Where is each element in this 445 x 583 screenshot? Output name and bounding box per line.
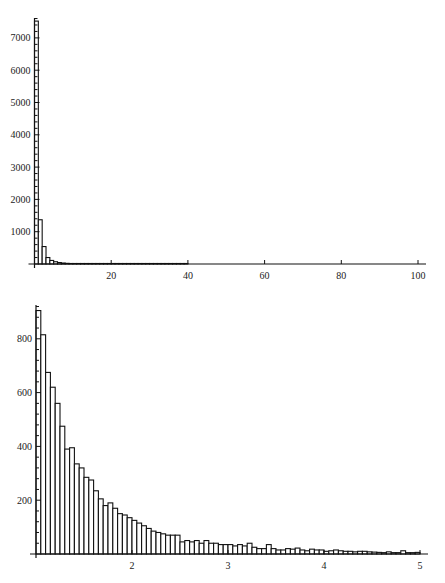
y-tick-label: 200: [17, 495, 32, 506]
histogram-bar: [223, 545, 228, 554]
histogram-bar: [281, 550, 286, 554]
histogram-bar: [295, 548, 300, 554]
histogram-bar: [276, 550, 281, 554]
histogram-bar: [242, 546, 247, 554]
histogram-bar: [406, 553, 411, 554]
histogram-bar: [266, 545, 271, 554]
histogram-bar: [127, 518, 132, 554]
x-tick-label: 4: [322, 560, 327, 571]
histogram-bar: [46, 258, 50, 264]
y-tick-label: 4000: [11, 129, 31, 140]
histogram-bar: [79, 468, 84, 554]
bars: [36, 311, 420, 554]
histogram-bar: [55, 403, 60, 554]
histogram-bar: [362, 551, 367, 554]
histogram-bar: [98, 499, 103, 554]
histogram-bar: [377, 552, 382, 554]
y-tick-label: 7000: [11, 32, 31, 43]
histogram-bar: [228, 545, 233, 554]
histogram-bar: [252, 547, 257, 554]
histogram-bar: [319, 550, 324, 554]
histogram-bar: [103, 506, 108, 554]
histogram-bar: [401, 551, 406, 554]
histogram-bar: [42, 247, 46, 264]
histogram-bar: [161, 534, 166, 554]
y-tick-label: 6000: [11, 65, 31, 76]
histogram-bar: [190, 542, 195, 554]
histogram-bar: [290, 549, 295, 554]
histogram-bar: [142, 526, 147, 554]
y-tick-label: 400: [17, 441, 32, 452]
x-tick-label: 60: [260, 270, 270, 281]
histogram-bar: [151, 531, 156, 554]
histogram-bar: [338, 551, 343, 554]
histogram-bar: [132, 520, 137, 554]
histogram-bar: [70, 448, 75, 554]
x-tick-label: 20: [106, 270, 116, 281]
histogram-bar: [396, 553, 401, 554]
histogram-bar: [122, 515, 127, 554]
histogram-bar: [199, 543, 204, 554]
histogram-bar: [257, 549, 262, 554]
histogram-bar: [238, 545, 243, 554]
histogram-bar: [310, 549, 315, 554]
y-tick-label: 2000: [11, 194, 31, 205]
histogram-bar: [358, 551, 363, 554]
histogram-bar: [218, 545, 223, 554]
histogram-bar: [41, 335, 46, 554]
x-tick-label: 40: [183, 270, 193, 281]
x-tick-label: 3: [226, 560, 231, 571]
bars: [35, 21, 188, 264]
histogram-bar: [329, 551, 334, 554]
histogram-bar: [314, 550, 319, 554]
x-tick-label: 5: [418, 560, 423, 571]
histogram-bar: [415, 552, 420, 554]
histogram-bar: [247, 543, 252, 554]
y-tick-label: 800: [17, 333, 32, 344]
histogram-bar: [353, 552, 358, 554]
histogram-bar: [386, 552, 391, 554]
histogram-bar: [156, 532, 161, 554]
histogram-bar: [233, 546, 238, 554]
histogram-bar: [305, 551, 310, 554]
histogram-bar: [391, 553, 396, 554]
histogram-bar: [185, 541, 190, 554]
histogram-bar: [94, 491, 99, 554]
x-tick-label: 2: [130, 560, 135, 571]
histogram-bar: [38, 220, 42, 264]
y-tick-label: 5000: [11, 97, 31, 108]
histogram-bar: [348, 551, 353, 554]
histogram-bar: [74, 464, 79, 554]
histogram-bar: [137, 523, 142, 554]
histogram-bar: [204, 541, 209, 554]
histogram-bar: [286, 549, 291, 554]
histogram-bar: [146, 528, 151, 554]
x-tick-label: 100: [411, 270, 426, 281]
histogram-bar: [108, 503, 113, 554]
histogram-bar: [113, 508, 118, 554]
histogram-bar: [50, 387, 55, 554]
histogram-bar: [65, 449, 70, 554]
histogram-bar: [89, 480, 94, 554]
histogram-bar: [209, 543, 214, 554]
histogram-bar: [334, 550, 339, 554]
histogram-bar: [36, 311, 41, 554]
histogram-bar: [180, 542, 185, 554]
histogram-bar: [118, 514, 123, 554]
histogram-bar: [382, 553, 387, 554]
histogram-bar: [214, 543, 219, 554]
x-tick-label: 80: [336, 270, 346, 281]
histogram-bar: [194, 541, 199, 554]
y-tick-label: 600: [17, 387, 32, 398]
histogram-bar: [410, 553, 415, 554]
histogram-bar: [170, 535, 175, 554]
histogram-bar: [324, 551, 329, 554]
y-tick-label: 1000: [11, 226, 31, 237]
histogram-bar: [60, 426, 65, 554]
histogram-bar: [84, 477, 89, 554]
histogram-bar: [271, 549, 276, 554]
histogram-bar: [300, 550, 305, 554]
histogram-bar: [262, 549, 267, 554]
histogram-bar: [175, 535, 180, 554]
histogram-bar: [343, 551, 348, 554]
